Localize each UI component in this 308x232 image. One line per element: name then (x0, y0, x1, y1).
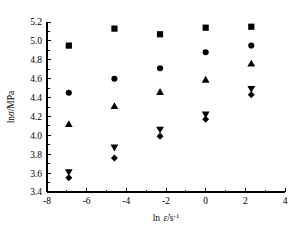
data-point-triangle-up (65, 120, 73, 127)
data-point-triangle-up (247, 60, 255, 67)
data-point-layer (65, 24, 255, 182)
x-tick-label: 4 (283, 196, 288, 206)
y-tick-label: 5.2 (30, 17, 42, 27)
y-tick-label: 4.0 (30, 131, 42, 141)
data-point-square (203, 25, 209, 31)
data-point-diamond (157, 133, 164, 140)
y-axis-title: lnσ/MPa (6, 90, 16, 123)
data-point-triangle-up (156, 88, 164, 95)
y-tick-label: 4.4 (30, 93, 42, 103)
y-tick-label: 4.6 (30, 74, 42, 84)
data-point-square (248, 24, 254, 30)
data-point-diamond (111, 155, 118, 162)
data-point-square (66, 43, 72, 49)
y-tick-label: 3.6 (30, 169, 42, 179)
data-point-diamond (248, 91, 255, 98)
x-axis-ticks: -8-6-4-2024 (43, 188, 288, 206)
x-tick-label: -4 (122, 196, 130, 206)
data-point-square (111, 26, 117, 32)
data-point-triangle-up (202, 76, 210, 83)
x-tick-label: -6 (83, 196, 91, 206)
y-tick-label: 5.0 (30, 36, 42, 46)
scatter-plot-figure: 3.43.63.84.04.24.44.64.85.05.2 -8-6-4-20… (0, 0, 308, 232)
data-point-circle (66, 90, 72, 96)
y-tick-label: 4.8 (30, 55, 42, 65)
y-tick-label: 3.8 (30, 150, 42, 160)
y-tick-label: 3.4 (30, 187, 42, 197)
data-point-circle (111, 76, 117, 82)
data-point-circle (203, 49, 209, 55)
data-point-triangle-up (111, 102, 119, 109)
data-point-diamond (65, 174, 72, 181)
x-tick-label: -2 (162, 196, 170, 206)
data-point-triangle-down (156, 127, 164, 134)
x-tick-label: -8 (43, 196, 51, 206)
data-point-circle (157, 65, 163, 71)
data-point-triangle-down (111, 145, 119, 152)
y-tick-label: 4.2 (30, 112, 42, 122)
data-point-diamond (202, 116, 209, 123)
data-point-square (157, 31, 163, 37)
y-axis-ticks: 3.43.63.84.04.24.44.64.85.05.2 (30, 17, 51, 197)
x-tick-label: 0 (203, 196, 208, 206)
x-tick-label: 2 (243, 196, 248, 206)
x-axis-title: ln ε̇/s-1 (153, 212, 180, 223)
data-point-circle (248, 43, 254, 49)
